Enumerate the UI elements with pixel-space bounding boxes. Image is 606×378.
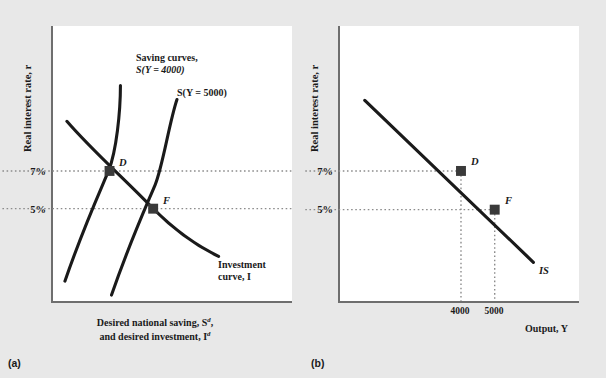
panel-a-y-axis-label: Real interest rate, r — [22, 65, 33, 152]
investment-curve-label: Investment curve, I — [218, 259, 266, 283]
saving-curves-label-line2: S(Y = 4000) — [136, 64, 185, 75]
panel-a-caption: (a) — [8, 357, 21, 369]
panel-b-xtick-4000: 4000 — [442, 306, 478, 316]
panel-b-point-f-label: F — [505, 195, 512, 206]
saving-curve-5000-label: S(Y = 5000) — [177, 87, 227, 99]
figure-root: Real interest rate, r 7% 5% Saving curve… — [0, 0, 606, 378]
panel-b-caption: (b) — [311, 357, 324, 369]
investment-curve-label-line2: curve, I — [218, 271, 251, 282]
panel-a: Real interest rate, r 7% 5% Saving curve… — [0, 0, 303, 378]
panel-b-x-axis-label: Output, Y — [525, 322, 568, 335]
panel-b-plot-area: D F IS — [338, 26, 579, 303]
panel-b: Real interest rate, r 7% 5% D F IS 4000 — [303, 0, 606, 378]
panel-a-point-d-label: D — [119, 157, 127, 168]
panel-a-point-d-marker — [105, 166, 115, 176]
is-curve — [365, 100, 534, 262]
panel-a-point-f-label: F — [163, 195, 170, 206]
is-curve-label: IS — [539, 265, 549, 276]
panel-a-x-axis-line2: and desired investment, Id — [99, 331, 210, 342]
investment-curve-label-line1: Investment — [218, 259, 266, 270]
panel-b-ytick-5pct: 5% — [309, 204, 333, 215]
saving-curves-label: Saving curves, S(Y = 4000) — [136, 52, 198, 76]
saving-curve-4000 — [65, 86, 121, 282]
panel-a-x-axis-label: Desired national saving, Sd, and desired… — [97, 316, 213, 343]
panel-b-ytick-7pct: 7% — [309, 166, 333, 177]
investment-curve — [67, 121, 219, 256]
panel-b-y-axis-label: Real interest rate, r — [309, 65, 320, 152]
panel-a-ytick-5pct: 5% — [22, 204, 46, 215]
panel-b-point-d-label: D — [471, 156, 479, 167]
saving-curves-label-line1: Saving curves, — [136, 52, 198, 63]
panel-b-point-d-marker — [456, 166, 466, 176]
panel-a-ytick-7pct: 7% — [22, 166, 46, 177]
panel-a-plot-area: Saving curves, S(Y = 4000) S(Y = 5000) I… — [51, 26, 292, 303]
panel-b-xtick-5000: 5000 — [476, 306, 512, 316]
panel-a-x-axis-line1: Desired national saving, Sd, — [97, 317, 213, 328]
panel-b-curves-svg — [340, 26, 579, 301]
panel-b-point-f-marker — [490, 205, 500, 215]
panel-a-point-f-marker — [148, 204, 158, 214]
